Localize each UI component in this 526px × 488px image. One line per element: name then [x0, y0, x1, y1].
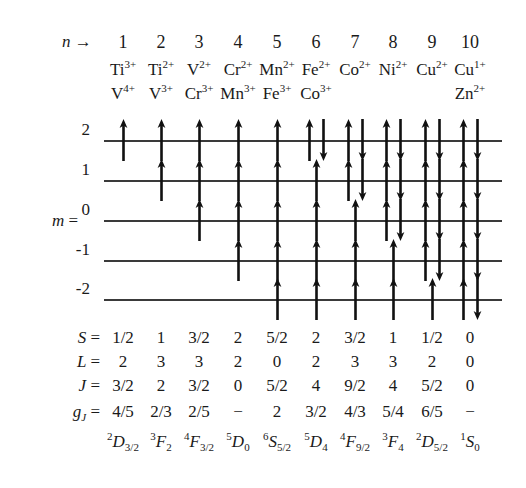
spin-up-arrow — [234, 199, 243, 241]
spin-up-arrow — [234, 159, 243, 201]
spin-up-arrow — [421, 239, 430, 281]
spin-up-arrow — [273, 159, 282, 201]
spin-up-arrow — [351, 239, 360, 281]
spin-up-arrow — [351, 278, 360, 320]
label-gJ: gJ = — [48, 402, 100, 423]
spin-up-arrow — [344, 119, 353, 161]
spin-down-arrow — [435, 199, 444, 241]
spin-up-arrow — [312, 159, 321, 201]
spin-up-arrow — [195, 199, 204, 241]
spin-down-arrow — [435, 239, 444, 281]
spin-up-arrow — [389, 239, 398, 281]
spin-down-arrow — [435, 159, 444, 201]
value-J: 0 — [446, 376, 494, 396]
value-gJ: − — [446, 402, 494, 422]
spin-up-arrow — [273, 199, 282, 241]
spin-up-arrow — [312, 199, 321, 241]
spin-down-arrow — [358, 119, 367, 161]
m-level-label: 2 — [56, 120, 90, 140]
axis-label-n: n → — [62, 32, 102, 52]
column-number: 6 — [294, 32, 338, 53]
column-number: 5 — [255, 32, 299, 53]
spin-up-arrow — [421, 199, 430, 241]
spin-up-arrow — [119, 119, 128, 161]
value-S: 0 — [446, 328, 494, 348]
spin-up-arrow — [195, 159, 204, 201]
spin-up-arrow — [382, 119, 391, 161]
m-level-label: -1 — [56, 240, 90, 260]
m-level-label: -2 — [56, 279, 90, 299]
spin-up-arrow — [421, 119, 430, 161]
column-number: 4 — [216, 32, 260, 53]
column-number: 3 — [177, 32, 221, 53]
spin-up-arrow — [312, 239, 321, 281]
spin-down-arrow — [473, 239, 482, 281]
spin-up-arrow — [312, 278, 321, 320]
spin-down-arrow — [435, 119, 444, 161]
orbital-line — [104, 299, 502, 301]
spin-down-arrow — [396, 199, 405, 241]
spin-up-arrow — [459, 119, 468, 161]
spin-down-arrow — [473, 159, 482, 201]
spin-down-arrow — [319, 119, 328, 161]
spin-down-arrow — [473, 199, 482, 241]
spin-up-arrow — [382, 159, 391, 201]
column-number: 8 — [371, 32, 415, 53]
spin-up-arrow — [421, 159, 430, 201]
spin-up-arrow — [459, 159, 468, 201]
value-L: 0 — [446, 352, 494, 372]
spin-up-arrow — [273, 119, 282, 161]
spin-up-arrow — [273, 278, 282, 320]
spin-up-arrow — [459, 278, 468, 320]
spin-up-arrow — [195, 119, 204, 161]
spin-down-arrow — [473, 278, 482, 320]
m-level-label: 1 — [56, 160, 90, 180]
ion-label-secondary: Co3+ — [290, 82, 342, 104]
spin-up-arrow — [273, 239, 282, 281]
label-S: S = — [48, 328, 100, 348]
spin-down-arrow — [396, 119, 405, 161]
spin-up-arrow — [382, 199, 391, 241]
spin-down-arrow — [396, 159, 405, 201]
spin-up-arrow — [459, 239, 468, 281]
ion-label-secondary: Zn2+ — [444, 82, 496, 104]
spin-up-arrow — [428, 278, 437, 320]
spin-up-arrow — [305, 119, 314, 161]
spin-down-arrow — [358, 159, 367, 201]
spin-up-arrow — [157, 159, 166, 201]
label-L: L = — [48, 352, 100, 372]
column-number: 10 — [448, 32, 492, 53]
spin-up-arrow — [351, 199, 360, 241]
m-level-label: 0 — [56, 200, 90, 220]
label-J: J = — [48, 376, 100, 396]
spin-up-arrow — [157, 119, 166, 161]
spin-up-arrow — [234, 239, 243, 281]
spin-up-arrow — [344, 159, 353, 201]
term-symbol: 1S0 — [445, 430, 495, 453]
figure-canvas: n →12345678910Ti3+Ti2+V2+Cr2+Mn2+Fe2+Co2… — [0, 0, 526, 488]
spin-up-arrow — [234, 119, 243, 161]
spin-down-arrow — [473, 119, 482, 161]
spin-up-arrow — [389, 278, 398, 320]
ion-label-primary: Cu1+ — [444, 58, 496, 80]
spin-up-arrow — [459, 199, 468, 241]
